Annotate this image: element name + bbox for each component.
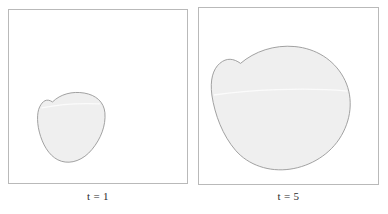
evolving-region-small [38, 92, 106, 162]
panel-caption-t5: t = 5 [198, 190, 379, 202]
panel-t1 [8, 9, 188, 184]
figure-container: t = 1 t = 5 [0, 0, 388, 214]
panel-caption-t1: t = 1 [8, 190, 188, 202]
shape-plot-t5 [199, 8, 378, 184]
panel-t5 [198, 7, 379, 185]
evolving-region-large [211, 46, 350, 170]
shape-plot-t1 [9, 10, 187, 183]
